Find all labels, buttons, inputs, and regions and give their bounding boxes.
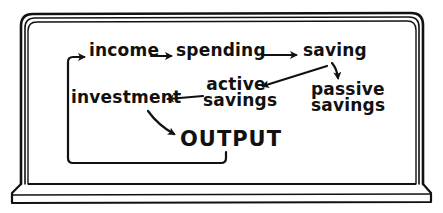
passive-savings-line2: savings [311,97,381,113]
node-income: income [89,42,159,59]
active-savings-line2: savings [203,92,269,108]
node-spending: spending [176,42,266,59]
node-passive-savings: passive savings [311,81,381,113]
diagram-stage: income spending saving active savings pa… [0,0,443,213]
node-output: OUTPUT [180,129,282,150]
arrow-saving-passive [332,63,338,78]
node-saving: saving [303,42,367,59]
node-investment: investment [71,89,181,106]
node-active-savings: active savings [203,76,269,108]
arrow-investment-output [148,111,174,134]
chalk-ledge [12,184,431,203]
